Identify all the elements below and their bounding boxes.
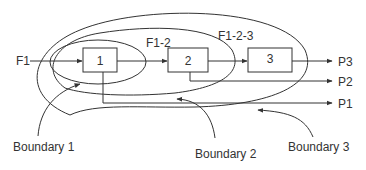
- boundary-label-2: Boundary 2: [195, 147, 257, 161]
- output-label-p3: P3: [338, 55, 353, 69]
- process-label-1: 1: [97, 54, 104, 68]
- output-arrow-p1: [103, 72, 332, 103]
- flow-group-label-f1-2: F1-2: [146, 36, 171, 50]
- boundary-label-1: Boundary 1: [13, 140, 75, 154]
- boundary-label-3: Boundary 3: [288, 140, 350, 154]
- output-arrow-p2: [190, 72, 332, 81]
- process-boundary-diagram: F1 1 2 3 P3 P2 P1 F1-2 F1-2-3 Boundary 1…: [0, 0, 366, 170]
- input-label-f1: F1: [16, 54, 30, 68]
- flow-group-label-f1-2-3: F1-2-3: [218, 29, 254, 43]
- output-label-p2: P2: [338, 75, 353, 89]
- output-label-p1: P1: [338, 97, 353, 111]
- boundary-3-leader: [258, 110, 313, 137]
- boundary-2-leader: [177, 99, 215, 138]
- process-label-3: 3: [267, 52, 274, 66]
- process-label-2: 2: [185, 54, 192, 68]
